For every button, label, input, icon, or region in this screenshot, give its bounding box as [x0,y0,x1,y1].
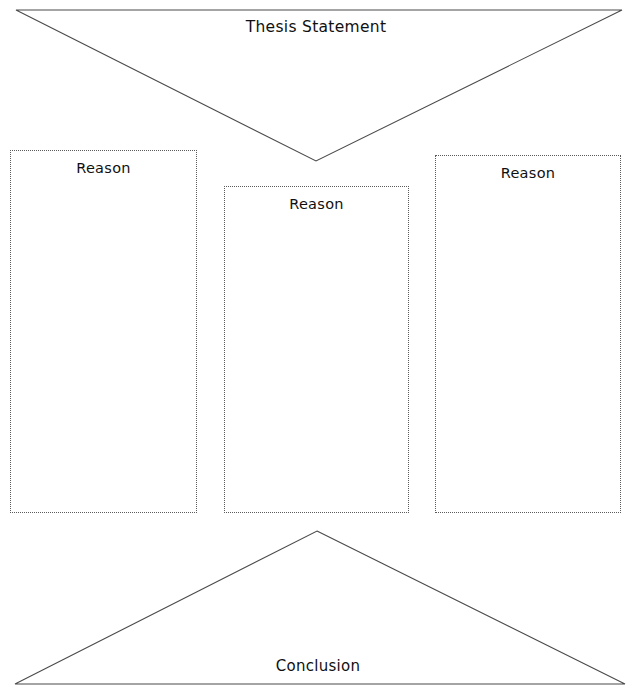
reason-box-left[interactable]: Reason [10,150,197,513]
reason-box-middle[interactable]: Reason [224,186,409,513]
reason-label-left: Reason [11,160,196,176]
reason-label-middle-text: Reason [289,196,344,212]
reason-label-left-text: Reason [76,160,131,176]
reason-label-right-text: Reason [501,165,556,181]
reason-label-middle: Reason [225,196,408,212]
essay-graphic-organizer: Thesis Statement Reason Reason Reason Co… [0,0,633,694]
reason-label-right: Reason [436,165,620,181]
reason-box-right[interactable]: Reason [435,155,621,513]
conclusion-label: Conclusion [276,657,361,675]
thesis-statement-label: Thesis Statement [246,18,387,36]
